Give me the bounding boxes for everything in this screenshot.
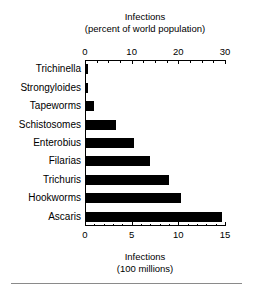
top-axis-tick-label: 20	[173, 47, 184, 57]
bottom-axis-tick-label: 0	[82, 230, 87, 240]
bottom-axis-tick-label: 10	[173, 230, 184, 240]
bottom-axis-tick-label: 15	[220, 230, 231, 240]
plot-area: 0102030 051015	[85, 60, 225, 226]
top-axis-tick-label: 0	[82, 47, 87, 57]
bottom-axis-title: Infections (100 millions)	[60, 251, 230, 275]
top-axis-major-tick	[132, 60, 133, 64]
bottom-axis-minor-tick	[104, 224, 105, 227]
bottom-axis-minor-tick	[197, 224, 198, 227]
category-label: Enterobius	[0, 138, 81, 148]
category-label: Trichinella	[0, 64, 81, 74]
top-axis-title-line1: Infections	[60, 11, 230, 23]
top-axis-major-tick	[178, 60, 179, 64]
bottom-axis-minor-tick	[94, 224, 95, 227]
bar	[85, 212, 222, 222]
bottom-axis-tick-label: 5	[129, 230, 134, 240]
category-label: Filarias	[0, 156, 81, 166]
bottom-axis-line	[85, 225, 225, 226]
footer-divider	[11, 283, 242, 284]
bar-chart-figure: Infections (percent of world population)…	[0, 0, 254, 292]
top-axis-major-tick	[225, 60, 226, 64]
top-axis-title-line2: (percent of world population)	[60, 23, 230, 35]
bottom-axis-minor-tick	[216, 224, 217, 227]
bar	[85, 101, 94, 111]
top-axis-minor-tick	[97, 60, 98, 63]
bottom-axis-minor-tick	[122, 224, 123, 227]
category-label: Hookworms	[0, 193, 81, 203]
bar	[85, 120, 116, 130]
category-axis-labels: TrichinellaStrongyloidesTapewormsSchisto…	[0, 60, 81, 226]
top-axis-minor-tick	[155, 60, 156, 63]
top-axis-minor-tick	[120, 60, 121, 63]
bottom-axis-minor-tick	[141, 224, 142, 227]
bottom-axis-major-tick	[132, 222, 133, 226]
bottom-axis-minor-tick	[113, 224, 114, 227]
bottom-axis-title-line2: (100 millions)	[60, 263, 230, 275]
top-axis-title: Infections (percent of world population)	[60, 11, 230, 35]
top-axis-minor-tick	[213, 60, 214, 63]
top-axis-tick-label: 10	[126, 47, 137, 57]
top-axis-minor-tick	[190, 60, 191, 63]
bar	[85, 138, 134, 148]
top-axis-minor-tick	[143, 60, 144, 63]
top-axis-minor-tick	[202, 60, 203, 63]
category-label: Ascaris	[0, 212, 81, 222]
bottom-axis-major-tick	[85, 222, 86, 226]
bottom-axis-minor-tick	[188, 224, 189, 227]
category-label: Tapeworms	[0, 101, 81, 111]
bottom-axis-major-tick	[178, 222, 179, 226]
bar	[85, 64, 88, 74]
bar	[85, 83, 88, 93]
bottom-axis-minor-tick	[150, 224, 151, 227]
category-label: Trichuris	[0, 175, 81, 185]
bottom-axis-title-line1: Infections	[60, 251, 230, 263]
top-axis-tick-label: 30	[220, 47, 231, 57]
bottom-axis-minor-tick	[169, 224, 170, 227]
bottom-axis-minor-tick	[160, 224, 161, 227]
top-axis-minor-tick	[167, 60, 168, 63]
bar	[85, 175, 169, 185]
bar	[85, 193, 181, 203]
top-axis-minor-tick	[108, 60, 109, 63]
bottom-axis-major-tick	[225, 222, 226, 226]
category-label: Strongyloides	[0, 83, 81, 93]
bar	[85, 156, 150, 166]
bottom-axis-minor-tick	[206, 224, 207, 227]
category-label: Schistosomes	[0, 120, 81, 130]
